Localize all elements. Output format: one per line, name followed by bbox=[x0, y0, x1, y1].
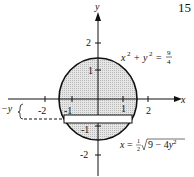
diagram: y x -2 -1 1 2 2 1 -1 -2 −y x 2 + y 2 = 9… bbox=[0, 0, 194, 177]
x-axis-label: x bbox=[180, 94, 186, 105]
circle-equation: x 2 + y 2 = 9 4 bbox=[120, 49, 172, 66]
y-tick-label: -1 bbox=[81, 124, 89, 135]
x-tick-label: -1 bbox=[64, 105, 72, 116]
strip-equation: x = 1 2 9 − 4y2 bbox=[119, 138, 185, 152]
svg-text:y: y bbox=[142, 52, 148, 63]
x-tick-label: -2 bbox=[38, 105, 46, 116]
svg-text:2: 2 bbox=[137, 146, 140, 152]
x-tick-label: 1 bbox=[121, 103, 126, 114]
y-axis-arrow-icon bbox=[95, 12, 101, 21]
svg-text:9: 9 bbox=[167, 49, 171, 57]
svg-text:x: x bbox=[119, 139, 125, 150]
svg-text:2: 2 bbox=[149, 50, 153, 58]
svg-text:4: 4 bbox=[167, 58, 171, 66]
svg-text:=: = bbox=[127, 139, 133, 150]
y-tick-label: 1 bbox=[88, 65, 93, 76]
x-tick-label: 2 bbox=[146, 105, 151, 116]
y-axis-label: y bbox=[94, 1, 100, 12]
y-tick-label: -2 bbox=[80, 149, 88, 160]
svg-text:x: x bbox=[120, 52, 126, 63]
problem-number: 15 bbox=[178, 0, 191, 15]
svg-text:+: + bbox=[134, 52, 140, 63]
horizontal-strip bbox=[64, 115, 132, 123]
svg-text:1: 1 bbox=[137, 138, 140, 144]
brace bbox=[18, 104, 23, 119]
svg-text:9 − 4y2: 9 − 4y2 bbox=[148, 138, 177, 150]
y-tick-label: 2 bbox=[86, 37, 91, 48]
strip-label: −y bbox=[1, 103, 13, 114]
svg-text:=: = bbox=[156, 52, 162, 63]
svg-text:2: 2 bbox=[127, 50, 131, 58]
